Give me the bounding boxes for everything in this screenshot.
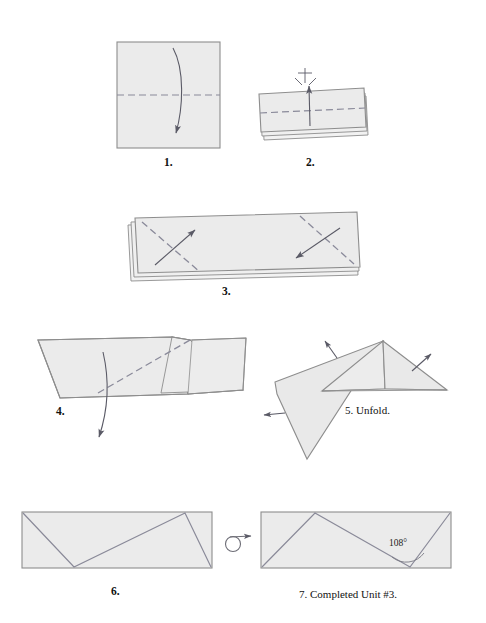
step-3-diagram (128, 212, 360, 281)
step-6-paper-rectangle (22, 512, 212, 568)
step-2-diagram (259, 68, 368, 140)
step-2-caption: 2. (306, 157, 315, 169)
step-3-layer-front (135, 212, 360, 273)
step-5-right-triangle (383, 341, 447, 390)
step-2-pinch-crease-mark (295, 68, 316, 85)
step-5-diagram (264, 341, 447, 459)
step-5-arrow-left (264, 413, 285, 415)
step-2-top-layer (259, 88, 366, 132)
step-7-diagram (261, 512, 451, 568)
step-5-caption: 5. Unfold. (345, 405, 390, 416)
step-5-arrow-up-left (325, 341, 337, 358)
turn-over-circle (226, 537, 241, 552)
step-1-caption: 1. (164, 157, 173, 169)
step-6-diagram (22, 512, 212, 568)
step-6-caption: 6. (111, 586, 120, 598)
turn-over-symbol (226, 536, 252, 552)
step-4-right-region (188, 338, 246, 394)
step-7-caption: 7. Completed Unit #3. (299, 589, 397, 600)
angle-label-108: 108° (389, 538, 407, 548)
step-3-caption: 3. (222, 286, 231, 298)
step-7-paper-rectangle (261, 512, 451, 568)
step-4-diagram (38, 337, 246, 437)
step-4-caption: 4. (56, 406, 65, 418)
step-1-diagram (117, 42, 220, 148)
origami-instruction-figure (0, 0, 486, 623)
step-5-arrow-up-right (412, 354, 431, 371)
